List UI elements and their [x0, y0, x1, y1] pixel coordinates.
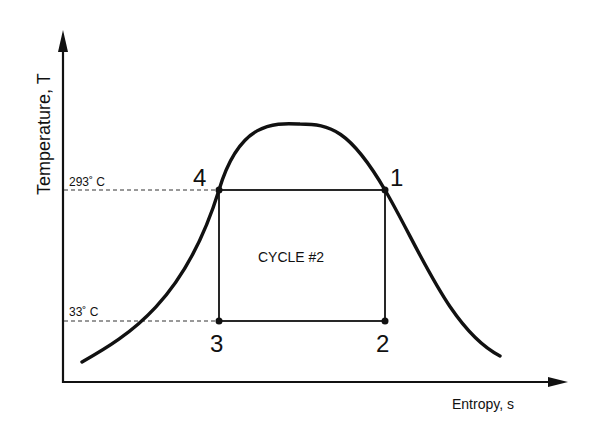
point-label-3: 3 [210, 330, 223, 357]
state-point-4 [216, 187, 223, 194]
point-label-1: 1 [390, 164, 403, 191]
point-label-4: 4 [193, 164, 206, 191]
state-point-1 [382, 187, 389, 194]
high-temp-label: 293˚ C [69, 175, 105, 189]
low-temp-label: 33˚ C [69, 305, 99, 319]
point-label-2: 2 [376, 330, 389, 357]
ts-diagram: 1 2 3 4 293˚ C 33˚ C CYCLE #2 Temperatur… [0, 0, 591, 435]
y-axis-label: Temperature, T [34, 73, 54, 195]
state-point-2 [382, 318, 389, 325]
state-point-3 [216, 318, 223, 325]
x-axis-label: Entropy, s [452, 396, 514, 412]
y-axis-arrow-icon [58, 30, 68, 52]
saturation-dome-curve [82, 124, 500, 362]
cycle-label: CYCLE #2 [258, 249, 324, 265]
x-axis-arrow-icon [548, 377, 568, 387]
